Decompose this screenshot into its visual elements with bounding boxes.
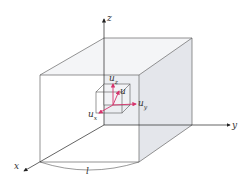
uy-sub: y [144, 103, 147, 110]
uz-label: uz [109, 74, 118, 85]
x-axis [24, 125, 104, 171]
ux-label: ux [88, 110, 97, 121]
y-axis-label: y [232, 121, 237, 130]
length-label: l [86, 167, 89, 176]
u-label: u [120, 87, 126, 96]
ux-sub: x [94, 114, 97, 121]
uz-sub: z [115, 78, 118, 85]
uy-label: uy [138, 99, 147, 110]
z-axis-label: z [107, 14, 112, 23]
x-axis-label: x [14, 162, 19, 171]
dimension-arc [40, 162, 139, 170]
